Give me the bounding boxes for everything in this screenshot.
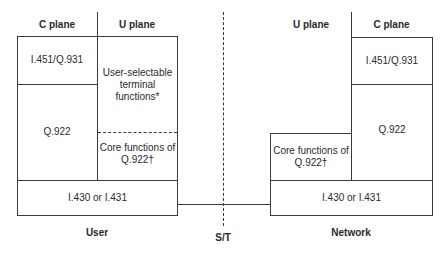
user-terminal-functions-label: User-selectable terminal functions* <box>100 60 175 110</box>
network-c-layer2-label: Q.922 <box>351 120 433 140</box>
user-label: User <box>57 226 137 240</box>
user-core-functions-label: Core functions of Q.922† <box>97 138 178 170</box>
network-c-plane-header: C plane <box>351 18 432 32</box>
user-u-plane-header: U plane <box>97 18 177 32</box>
network-core-functions-label: Core functions of Q.922† <box>270 133 352 180</box>
st-reference-label: S/T <box>203 231 243 245</box>
network-c-layer3-label: I.451/Q.931 <box>351 37 433 84</box>
st-interface-link-line <box>177 204 270 205</box>
network-physical-label: I.430 or I.431 <box>270 180 433 216</box>
network-u-plane-header: U plane <box>271 18 351 32</box>
st-reference-dashed-line <box>223 12 224 226</box>
user-u-plane-dashed-divider <box>98 132 177 133</box>
user-c-layer3-label: I.451/Q.931 <box>17 36 97 84</box>
user-physical-label: I.430 or I.431 <box>17 180 178 216</box>
user-c-layer2-label: Q.922 <box>17 84 97 180</box>
user-c-plane-header: C plane <box>17 18 97 32</box>
network-label: Network <box>311 226 391 240</box>
